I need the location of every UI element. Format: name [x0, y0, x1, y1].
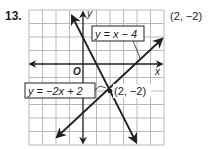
coordinate-graph: y = x − 4 y = −2x + 2 (2, −2) y x O [0, 0, 214, 149]
intersection-point [108, 89, 113, 94]
origin-label: O [73, 66, 81, 77]
x-axis-label: x [154, 66, 161, 77]
intersection-label: (2, −2) [114, 85, 146, 97]
label-line-2: y = −2x + 2 [27, 85, 83, 97]
label-line-1: y = x − 4 [94, 28, 137, 40]
y-axis-label: y [86, 8, 93, 19]
